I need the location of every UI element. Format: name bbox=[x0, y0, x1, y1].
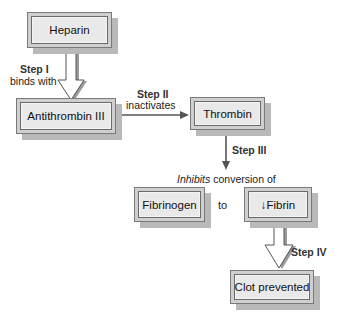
node-heparin: Heparin bbox=[27, 12, 112, 48]
step2-desc: inactivates bbox=[126, 99, 176, 111]
step1-title: Step I bbox=[20, 63, 49, 75]
conversion-rest: conversion of bbox=[210, 173, 275, 185]
hollow-arrow-step1 bbox=[58, 48, 87, 101]
node-fibrin: ↓Fibrin bbox=[244, 187, 312, 222]
step1-desc: binds with bbox=[10, 75, 57, 87]
node-fibrinogen: Fibrinogen bbox=[134, 187, 205, 222]
node-thrombin-label: Thrombin bbox=[194, 101, 261, 126]
node-heparin-label: Heparin bbox=[31, 16, 108, 44]
node-antithrombin-label: Antithrombin III bbox=[20, 102, 112, 130]
node-thrombin: Thrombin bbox=[190, 97, 265, 130]
step4-title: Step IV bbox=[291, 246, 327, 258]
node-clot-prevented: Clot prevented bbox=[230, 270, 314, 304]
arrow-step2 bbox=[117, 111, 189, 119]
inhibits-text: Inhibits bbox=[177, 173, 210, 185]
node-fibrinogen-label: Fibrinogen bbox=[138, 191, 201, 218]
node-antithrombin: Antithrombin III bbox=[16, 98, 116, 134]
to-text: to bbox=[218, 199, 227, 211]
node-clot-label: Clot prevented bbox=[234, 274, 310, 300]
node-fibrin-label: ↓Fibrin bbox=[248, 191, 308, 218]
conversion-text: Inhibits conversion of bbox=[177, 173, 276, 185]
arrow-step3 bbox=[222, 130, 230, 170]
step3-title: Step III bbox=[232, 144, 266, 156]
